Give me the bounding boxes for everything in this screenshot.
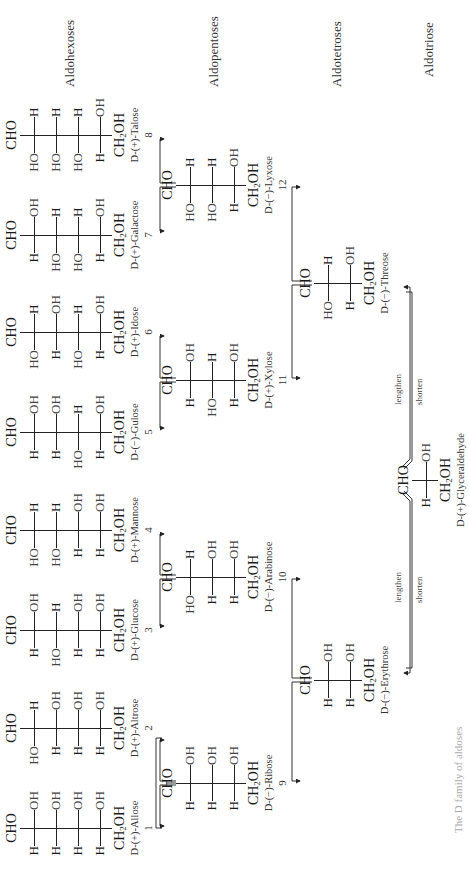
right-substituent: H [70, 305, 86, 314]
right-substituent: OH [92, 691, 108, 710]
left-substituent: H [48, 846, 64, 855]
right-substituent: OH [226, 148, 242, 167]
bond-line [234, 167, 235, 203]
shorten-label-right: shorten [414, 379, 424, 406]
bond-line [100, 217, 101, 253]
left-substituent: H [26, 450, 42, 459]
left-substituent: HO [26, 153, 42, 172]
right-substituent: OH [92, 98, 108, 117]
left-substituent: H [204, 801, 220, 810]
stereocenter-row: HOH [320, 640, 336, 720]
stereocenter-row: HOH [48, 788, 64, 868]
aldose-family-diagram: Aldohexoses Aldopentoses Aldotetroses Al… [0, 0, 469, 873]
stereocenter-row: HOH [92, 788, 108, 868]
bond-line [78, 217, 79, 253]
stereocenter-row: HOH [26, 788, 42, 868]
stereocenter-row: HOH [26, 490, 42, 570]
right-substituent: H [182, 158, 198, 167]
right-substituent: OH [92, 493, 108, 512]
aldehyde-group: CHO [4, 788, 20, 868]
bond-line [56, 612, 57, 648]
left-substituent: HO [48, 548, 64, 567]
right-substituent: H [48, 603, 64, 612]
left-substituent: HO [70, 153, 86, 172]
left-substituent: HO [70, 350, 86, 369]
stereocenter-row: HOH [342, 640, 358, 720]
left-substituent: HO [48, 253, 64, 272]
left-substituent: H [70, 746, 86, 755]
hydroxymethyl-group: CH2OH [112, 95, 128, 175]
right-substituent: H [320, 256, 336, 265]
left-substituent: H [92, 746, 108, 755]
left-substituent: H [92, 450, 108, 459]
left-substituent: H [92, 548, 108, 557]
aldehyde-group: CHO [4, 590, 20, 670]
sugar-number: 4 [142, 490, 154, 570]
bond-line [190, 559, 191, 595]
stereocenter-row: HOH [204, 340, 220, 420]
stereocenter-row: HOH [92, 195, 108, 275]
sugar-number: 1 [142, 788, 154, 868]
left-substituent: H [70, 548, 86, 557]
left-substituent: HO [48, 153, 64, 172]
stereocenter-row: HOH [320, 243, 336, 323]
aldehyde-group: CHO [160, 145, 176, 225]
stereocenter-row: HOH [226, 743, 242, 823]
bond-line [100, 612, 101, 648]
right-substituent: OH [204, 540, 220, 559]
right-substituent: H [182, 550, 198, 559]
right-substituent: OH [26, 593, 42, 612]
left-substituent: H [92, 648, 108, 657]
sugar-number: 3 [142, 590, 154, 670]
right-substituent: OH [92, 791, 108, 810]
sugar-number: 12 [276, 145, 288, 225]
stereocenter-row: HOH [70, 688, 86, 768]
stereocenter-row: HOH [48, 292, 64, 372]
right-substituent: OH [70, 493, 86, 512]
bond-line [56, 217, 57, 253]
stereocenter-row: HOH [70, 590, 86, 670]
hydroxymethyl-group: CH2OH [246, 340, 262, 420]
stereocenter-row: HOH [70, 195, 86, 275]
sugar-name: D-(+)-Glyceraldehyde [455, 420, 466, 540]
hydroxymethyl-group: CH2OH [362, 640, 378, 720]
bond-line [34, 117, 35, 153]
hydroxymethyl-group: CH2OH [112, 392, 128, 472]
hydroxymethyl-group: CH2OH [112, 688, 128, 768]
sugar-number: 2 [142, 688, 154, 768]
bond-line [212, 559, 213, 595]
left-substituent: H [92, 253, 108, 262]
sugar-number: 10 [276, 537, 288, 617]
stereocenter-row: HOH [226, 340, 242, 420]
left-substituent: H [92, 153, 108, 162]
aldehyde-group: CHO [4, 195, 20, 275]
sugar-name: D-(−)-Arabinose [263, 517, 274, 637]
aldehyde-group: CHO [160, 340, 176, 420]
lengthen-label-left: lengthen [393, 572, 403, 603]
left-substituent: H [48, 350, 64, 359]
stereocenter-row: HOH [48, 392, 64, 472]
left-substituent: HO [70, 450, 86, 469]
aldehyde-group: CHO [4, 292, 20, 372]
bond-line [34, 217, 35, 253]
bond-line [56, 117, 57, 153]
aldehyde-group: CHO [298, 243, 314, 323]
stereocenter-row: HOH [182, 145, 198, 225]
right-substituent: OH [418, 443, 434, 462]
right-substituent: OH [92, 198, 108, 217]
right-substituent: OH [320, 643, 336, 662]
aldehyde-group: CHO [4, 95, 20, 175]
right-substituent: OH [48, 295, 64, 314]
sugar-name: D-(+)-Talose [129, 75, 140, 195]
left-substituent: H [26, 253, 42, 262]
left-substituent: H [182, 398, 198, 407]
bond-line [100, 512, 101, 548]
bond-line [34, 414, 35, 450]
shorten-label-left: shorten [414, 577, 424, 604]
right-substituent: OH [226, 343, 242, 362]
bond-line [34, 314, 35, 350]
bond-line [100, 117, 101, 153]
bond-line [56, 414, 57, 450]
right-substituent: OH [70, 691, 86, 710]
bond-line [100, 414, 101, 450]
